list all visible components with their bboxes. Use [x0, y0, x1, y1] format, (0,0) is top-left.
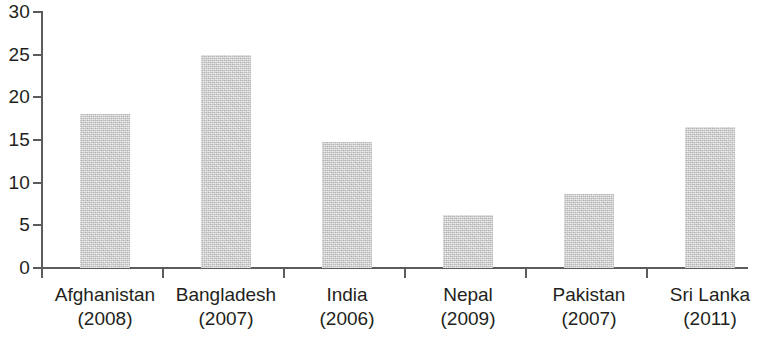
bar: [201, 55, 251, 268]
y-axis-tick: [33, 182, 42, 184]
y-axis-tick-label-text: 20: [0, 87, 30, 106]
x-axis-tick: [41, 269, 43, 278]
y-axis-tick-label: 0: [0, 258, 30, 277]
x-axis-tick: [404, 269, 406, 278]
y-axis-tick-label-text: 5: [0, 215, 30, 234]
bar: [685, 127, 735, 268]
x-axis-category-name: Sri Lanka: [635, 283, 761, 307]
y-axis-tick: [33, 139, 42, 141]
x-axis-tick: [162, 269, 164, 278]
y-axis-tick-label-text: 10: [0, 173, 30, 192]
plot-area: [42, 12, 748, 268]
y-axis-tick-label-text: 25: [0, 45, 30, 64]
bar: [80, 114, 130, 268]
bar: [443, 215, 493, 268]
y-axis-tick-label: 10: [0, 173, 30, 192]
x-axis-category-year: (2011): [635, 307, 761, 331]
y-axis-tick: [33, 224, 42, 226]
y-axis-tick: [33, 11, 42, 13]
bar: [564, 194, 614, 268]
y-axis-tick-label: 5: [0, 215, 30, 234]
bar: [322, 142, 372, 268]
bar-chart: 051015202530 Afghanistan(2008)Bangladesh…: [0, 0, 761, 338]
x-axis-tick: [283, 269, 285, 278]
y-axis-tick-label: 20: [0, 87, 30, 106]
x-axis-category-label: Sri Lanka(2011): [635, 283, 761, 331]
y-axis-tick-label: 30: [0, 2, 30, 21]
y-axis-tick-label-text: 15: [0, 130, 30, 149]
x-axis-tick: [646, 269, 648, 278]
y-axis-tick-label: 15: [0, 130, 30, 149]
x-axis-tick: [525, 269, 527, 278]
y-axis-tick: [33, 96, 42, 98]
y-axis-tick-label: 25: [0, 45, 30, 64]
y-axis-tick: [33, 54, 42, 56]
y-axis-tick-label-text: 0: [0, 258, 30, 277]
y-axis-tick-label-text: 30: [0, 2, 30, 21]
